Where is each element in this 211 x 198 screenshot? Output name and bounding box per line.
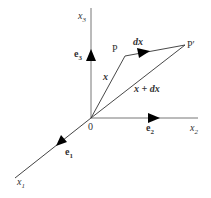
vector-dx-label: dx (133, 36, 143, 47)
e3-arrowhead-icon (86, 49, 96, 61)
x2-label: x2 (189, 122, 198, 136)
x1-axis (15, 118, 91, 178)
e3-label: e3 (74, 48, 82, 62)
e1-label: e1 (65, 146, 73, 160)
vector-x (91, 56, 125, 118)
x3-label: x3 (77, 10, 86, 24)
point-p-label: P (112, 43, 118, 54)
point-p-prime-label: P′ (187, 39, 195, 50)
e1-arrowhead-icon (56, 135, 67, 146)
e2-label: e2 (146, 122, 154, 136)
vector-x-label: x (102, 71, 108, 82)
coordinate-diagram: x3 e3 e2 x2 e1 x1 0 P P′ x dx x + dx (0, 0, 211, 198)
vector-x-plus-dx-label: x + dx (133, 83, 160, 94)
x1-label: x1 (16, 176, 25, 190)
origin-label: 0 (88, 121, 93, 132)
dx-arrowhead-icon (137, 48, 150, 58)
